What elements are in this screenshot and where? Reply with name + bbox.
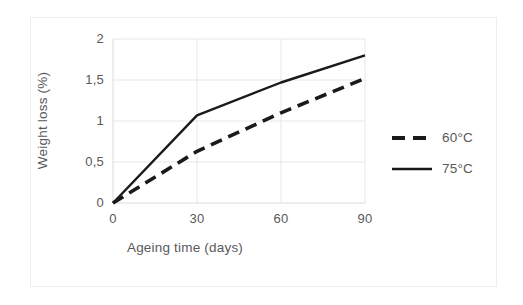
legend-swatch-solid-icon xyxy=(392,162,432,176)
legend-item-60c: 60°C xyxy=(392,122,492,153)
y-tick-label-1-5: 1,5 xyxy=(70,72,104,87)
x-tick-label-90: 90 xyxy=(350,211,380,226)
chart-figure: 2 1,5 1 0,5 0 0 30 60 90 Ageing time (da… xyxy=(0,0,523,305)
y-tick-label-0: 0 xyxy=(70,195,104,210)
legend-swatch-dashed-icon xyxy=(392,131,432,145)
y-tick-label-0-5: 0,5 xyxy=(70,154,104,169)
legend-item-75c: 75°C xyxy=(392,153,492,184)
x-tick-label-60: 60 xyxy=(266,211,296,226)
y-axis-title: Weight loss (%) xyxy=(35,41,50,201)
legend-label-75c: 75°C xyxy=(442,161,473,176)
legend-label-60c: 60°C xyxy=(442,130,473,145)
chart-legend: 60°C 75°C xyxy=(392,122,492,184)
y-tick-label-1: 1 xyxy=(70,113,104,128)
x-tick-label-30: 30 xyxy=(182,211,212,226)
x-axis-title: Ageing time (days) xyxy=(0,240,370,255)
y-tick-label-2: 2 xyxy=(70,31,104,46)
x-tick-label-0: 0 xyxy=(98,211,128,226)
series-path-60c xyxy=(113,78,365,203)
